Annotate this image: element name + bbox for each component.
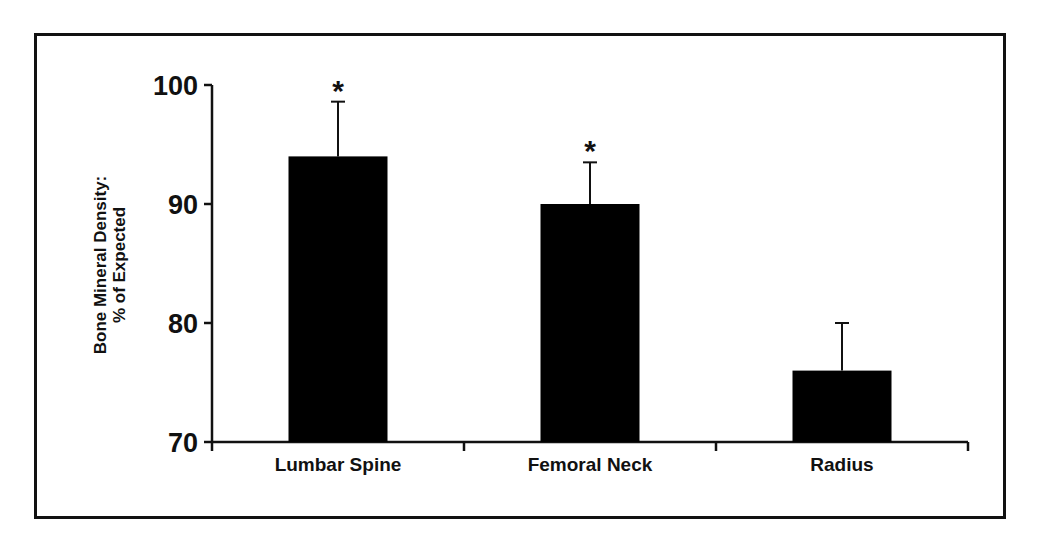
significance-marker: * (332, 74, 344, 107)
bar-femoral-neck (541, 204, 640, 442)
x-axis (212, 442, 968, 451)
bar-radius (793, 371, 892, 442)
y-axis: 708090100 (153, 71, 212, 458)
x-category-label: Femoral Neck (528, 454, 653, 475)
bar-lumbar-spine (289, 156, 388, 442)
y-tick-label: 100 (153, 71, 198, 101)
y-axis-label-line-2: % of Expected (110, 207, 129, 323)
bars: *Lumbar Spine*Femoral NeckRadius (275, 74, 892, 475)
x-category-label: Radius (810, 454, 873, 475)
bar-chart: 708090100 *Lumbar Spine*Femoral NeckRadi… (0, 0, 1038, 544)
y-tick-label: 70 (168, 428, 198, 458)
y-axis-label: Bone Mineral Density: % of Expected (91, 176, 129, 355)
y-axis-label-line-1: Bone Mineral Density: (91, 176, 110, 355)
significance-marker: * (584, 134, 596, 167)
y-tick-label: 90 (168, 190, 198, 220)
y-tick-label: 80 (168, 309, 198, 339)
x-category-label: Lumbar Spine (275, 454, 402, 475)
